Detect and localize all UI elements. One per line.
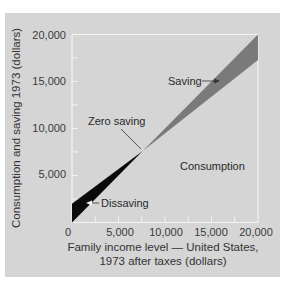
- saving-label: Saving: [168, 75, 202, 87]
- y-tick-label: 5,000: [38, 168, 66, 180]
- zero-saving-label: Zero saving: [88, 115, 145, 127]
- x-tick-labels: 0 5,000 10,000 15,000 20,000: [65, 226, 273, 238]
- y-tick-label: 10,000: [32, 122, 66, 134]
- consumption-label: Consumption: [180, 160, 245, 172]
- x-tick-label: 20,000: [239, 226, 273, 238]
- y-tick-labels: 5,000 10,000 15,000 20,000: [32, 29, 66, 180]
- zero-saving-pointer: [121, 129, 141, 149]
- saving-region: [143, 35, 258, 152]
- x-axis-title-line2: 1973 after taxes (dollars): [99, 255, 226, 267]
- x-tick-label: 5,000: [106, 226, 134, 238]
- y-tick-label: 15,000: [32, 75, 66, 87]
- chart: 5,000 10,000 15,000 20,000 0 5,000 10,00…: [0, 0, 291, 294]
- y-axis-title: Consumption and saving 1973 (dollars): [10, 28, 22, 228]
- x-tick-label: 0: [65, 226, 71, 238]
- y-tick-label: 20,000: [32, 29, 66, 41]
- x-axis-ticks: [95, 217, 235, 223]
- x-tick-label: 10,000: [149, 226, 183, 238]
- dissaving-label: Dissaving: [101, 197, 149, 209]
- dissaving-region: [72, 151, 143, 222]
- x-tick-label: 15,000: [194, 226, 228, 238]
- x-axis-title-line1: Family income level — United States,: [67, 241, 258, 253]
- y-axis-ticks: [72, 58, 78, 199]
